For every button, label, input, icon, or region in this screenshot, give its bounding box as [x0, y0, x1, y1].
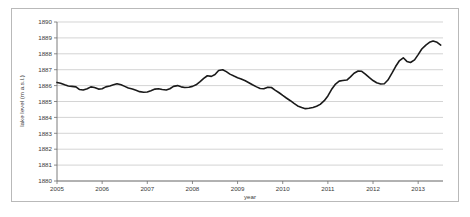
chart-figure: 1880188118821883188418851886188718881889…: [0, 0, 470, 217]
x-tick-label: 2007: [140, 185, 154, 192]
y-axis-ticks: 1880188118821883188418851886188718881889…: [38, 18, 57, 184]
y-tick-label: 1881: [38, 161, 52, 168]
x-tick-label: 2005: [50, 185, 64, 192]
x-tick-label: 2008: [186, 185, 200, 192]
y-tick-label: 1890: [38, 18, 52, 25]
x-tick-label: 2006: [95, 185, 109, 192]
gridlines: [57, 22, 443, 181]
y-tick-label: 1882: [38, 145, 52, 152]
x-tick-label: 2009: [231, 185, 245, 192]
y-tick-label: 1883: [38, 130, 52, 137]
x-tick-label: 2011: [321, 185, 335, 192]
y-tick-label: 1888: [38, 50, 52, 57]
y-axis-title: lake level (m a.s.l.): [18, 75, 25, 127]
y-tick-label: 1889: [38, 34, 52, 41]
y-tick-label: 1887: [38, 66, 52, 73]
y-tick-label: 1885: [38, 98, 52, 105]
line-chart: 1880188118821883188418851886188718881889…: [0, 0, 470, 217]
y-tick-label: 1880: [38, 177, 52, 184]
data-series-lake-level: [57, 41, 441, 109]
y-tick-label: 1886: [38, 82, 52, 89]
y-tick-label: 1884: [38, 114, 52, 121]
x-tick-label: 2012: [366, 185, 380, 192]
x-axis-title: year: [244, 193, 256, 200]
x-tick-label: 2013: [411, 185, 425, 192]
x-axis-ticks: 200520062007200820092010201120122013: [50, 181, 425, 192]
x-tick-label: 2010: [276, 185, 290, 192]
